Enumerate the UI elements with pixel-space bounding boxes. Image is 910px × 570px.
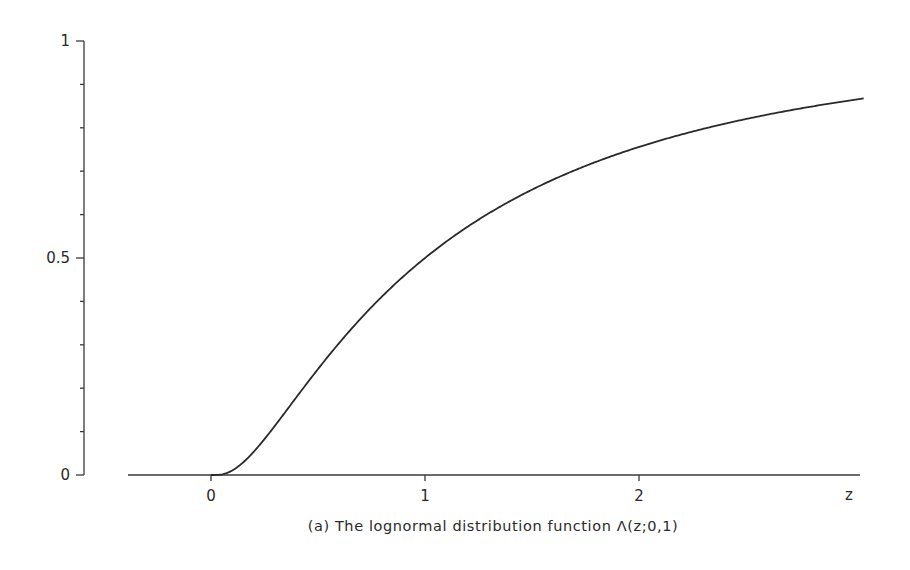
x-axis-label: z <box>845 486 853 504</box>
x-axis: 012 z <box>128 475 860 505</box>
x-tick-label: 1 <box>420 487 430 505</box>
y-axis-ticks <box>76 41 84 475</box>
y-axis: 00.51 <box>46 32 84 484</box>
figure-caption: (a) The lognormal distribution function … <box>308 518 679 534</box>
y-axis-tick-labels: 00.51 <box>46 32 70 484</box>
x-axis-tick-labels: 012 <box>206 487 644 505</box>
y-tick-label: 0 <box>60 466 70 484</box>
x-tick-label: 0 <box>206 487 216 505</box>
lognormal-cdf-chart: 00.51 012 z (a) The lognormal distributi… <box>0 0 910 570</box>
y-tick-label: 1 <box>60 32 70 50</box>
y-tick-label: 0.5 <box>46 249 70 267</box>
x-tick-label: 2 <box>634 487 644 505</box>
x-axis-ticks <box>211 475 639 481</box>
lognormal-cdf-curve <box>211 98 864 475</box>
